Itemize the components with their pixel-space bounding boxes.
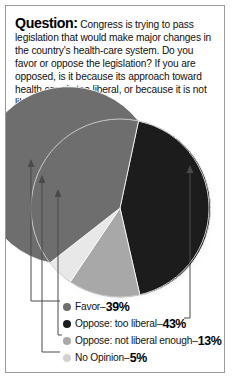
question-text: Question: Congress is trying to pass leg…	[15, 17, 217, 109]
legend-dot-icon	[63, 337, 71, 345]
pie-slice-no-opinion	[50, 208, 120, 282]
legend-label-oppose-not-liberal-enough: Oppose: not liberal enough	[75, 335, 192, 346]
pie-slice-favor	[6, 87, 139, 263]
question-label: Question:	[15, 15, 78, 31]
question-block: Question: Congress is trying to pass leg…	[15, 17, 217, 109]
legend-row-no-opinion: No Opinion – 5%	[63, 349, 223, 366]
leader-line-favor	[28, 159, 60, 301]
leader-line-oppose-not-liberal-enough	[55, 189, 62, 335]
chart-legend: Favor – 39% Oppose: too liberal – 43% Op…	[63, 298, 223, 366]
pie-slice-oppose-too-liberal	[120, 121, 211, 296]
legend-value-oppose-too-liberal: 43%	[162, 317, 186, 331]
poll-card: Question: Congress is trying to pass leg…	[5, 5, 225, 373]
leader-line-no-opinion	[39, 175, 60, 352]
legend-row-oppose-not-liberal-enough: Oppose: not liberal enough – 13%	[63, 332, 223, 349]
legend-dot-icon	[63, 303, 71, 311]
legend-label-oppose-too-liberal: Oppose: too liberal	[75, 318, 157, 329]
legend-row-favor: Favor – 39%	[63, 298, 223, 315]
legend-value-favor: 39%	[106, 300, 130, 314]
pie-slice-oppose-not-liberal-enough	[70, 208, 140, 298]
legend-dot-icon	[63, 320, 71, 328]
question-body: Congress is trying to pass legislation t…	[15, 19, 211, 108]
legend-value-no-opinion: 5%	[130, 351, 147, 365]
legend-label-no-opinion: No Opinion	[75, 352, 124, 363]
legend-value-oppose-not-liberal-enough: 13%	[198, 334, 222, 348]
leader-line-oppose-too-liberal	[184, 165, 193, 318]
legend-dot-icon	[63, 354, 71, 362]
legend-row-oppose-too-liberal: Oppose: too liberal – 43%	[63, 315, 223, 332]
pie-shadow	[25, 114, 219, 306]
pie-base-disc	[31, 119, 209, 297]
legend-label-favor: Favor	[75, 301, 100, 312]
pie-outline	[31, 119, 209, 297]
